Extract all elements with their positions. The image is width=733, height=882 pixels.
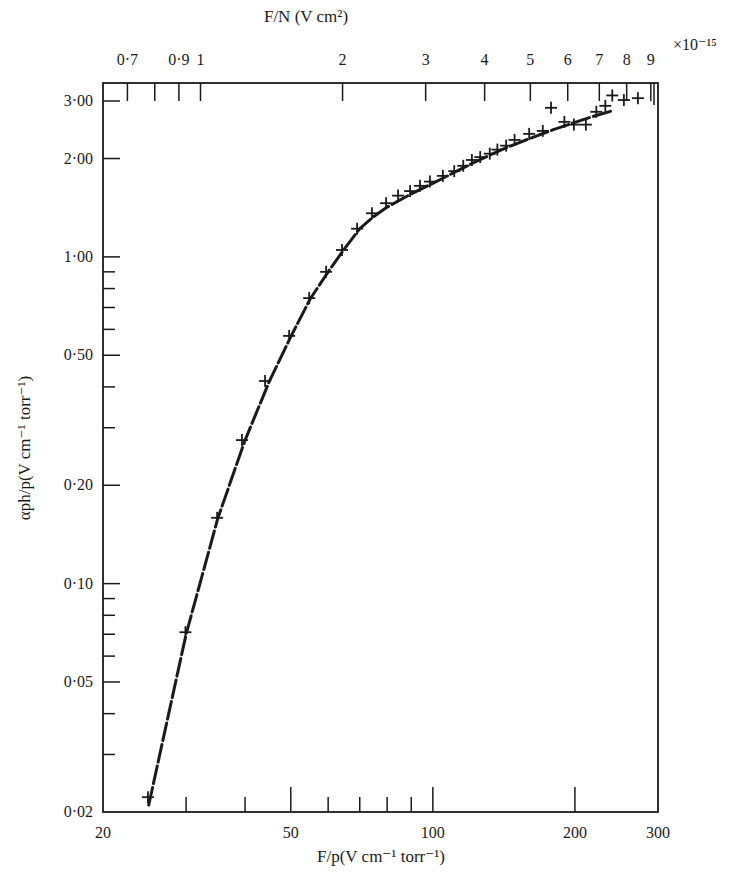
bottom-x-axis: 2050100200300: [95, 787, 670, 841]
y-tick-label: 0·10: [64, 575, 93, 592]
top-x-axis: 0·70·9123456789: [117, 51, 655, 101]
fitted-curve-group: [149, 111, 613, 805]
data-point: [632, 92, 644, 104]
data-point: [599, 100, 611, 112]
data-point: [179, 626, 191, 638]
x-tick-label: 50: [283, 824, 299, 841]
top-x-tick-label: 8: [623, 51, 631, 68]
data-point: [380, 197, 392, 209]
top-x-tick-label: 1: [197, 51, 205, 68]
data-point: [618, 94, 630, 106]
y-tick-label: 1·00: [64, 248, 93, 265]
data-points: [142, 89, 644, 803]
x-tick-label: 100: [421, 824, 445, 841]
data-point: [366, 207, 378, 219]
plot-border: [103, 83, 658, 812]
y-axis: 0·020·050·100·200·501·002·003·00: [64, 92, 120, 820]
data-point: [351, 223, 363, 235]
y-tick-label: 0·02: [64, 803, 93, 820]
fitted-curve: [149, 111, 613, 805]
top-x-tick-label: 9: [647, 51, 655, 68]
plot-frame: [103, 83, 658, 812]
top-x-tick-label: 0·9: [168, 51, 189, 68]
top-x-tick-label: 0·7: [117, 51, 138, 68]
top-x-tick-label: 2: [339, 51, 347, 68]
chart: 2050100200300 0·70·9123456789 0·020·050·…: [0, 0, 733, 882]
data-point: [320, 266, 332, 278]
x-tick-label: 300: [646, 824, 670, 841]
top-x-tick-label: 4: [481, 51, 489, 68]
y-tick-label: 0·20: [64, 476, 93, 493]
y-tick-label: 0·05: [64, 673, 93, 690]
x-tick-label: 20: [95, 824, 111, 841]
data-point: [466, 154, 478, 166]
data-point: [259, 375, 271, 387]
data-point: [211, 512, 223, 524]
data-point: [606, 89, 618, 101]
top-x-axis-title: F/N (V cm²): [264, 7, 348, 26]
data-point: [545, 102, 557, 114]
x-axis-title: F/p(V cm⁻¹ torr⁻¹): [317, 847, 445, 866]
top-x-tick-label: 7: [595, 51, 603, 68]
y-axis-title: αph/p(V cm⁻¹ torr⁻¹): [15, 376, 34, 520]
top-x-tick-label: 6: [564, 51, 572, 68]
y-tick-label: 3·00: [64, 92, 93, 109]
top-x-multiplier: ×10⁻¹⁵: [673, 36, 717, 53]
top-x-tick-label: 3: [422, 51, 430, 68]
top-x-tick-label: 5: [526, 51, 534, 68]
x-tick-label: 200: [563, 824, 587, 841]
y-tick-label: 2·00: [64, 150, 93, 167]
y-tick-label: 0·50: [64, 346, 93, 363]
